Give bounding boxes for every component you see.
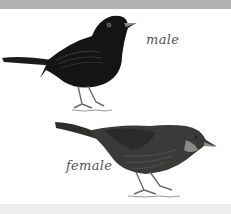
male-label: male [146,32,179,47]
male-blackbird-figure [2,16,137,111]
bottom-band [0,204,231,214]
female-label: female [66,158,112,173]
birds-illustration [0,0,231,214]
